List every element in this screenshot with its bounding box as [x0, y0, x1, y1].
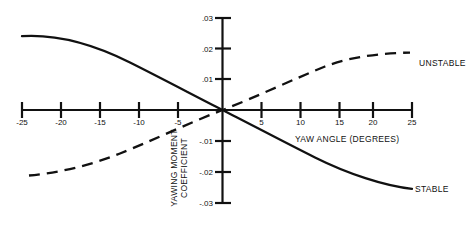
x-tick-label: 20	[369, 118, 378, 127]
y-axis-title-line-1: YAWING MOMENT	[169, 122, 179, 214]
series-label-stable: STABLE	[415, 184, 449, 194]
y-axis-title-line-2: COEFFICIENT	[179, 122, 189, 214]
x-tick-label: -15	[94, 118, 106, 127]
y-tick-label: .01	[196, 75, 213, 84]
chart-figure: -25 -20 -15 -10 -5 5 10 15 20 25 .03 .02…	[0, 0, 475, 229]
x-axis-title: YAW ANGLE (DEGREES)	[295, 134, 399, 144]
y-tick-label: .02	[196, 44, 213, 53]
x-tick-label: 15	[335, 118, 344, 127]
x-tick-label: -10	[133, 118, 145, 127]
y-axis-title: YAWING MOMENT COEFFICIENT	[152, 122, 242, 214]
x-tick-label: -20	[55, 118, 67, 127]
x-tick-label: 25	[408, 118, 417, 127]
x-tick-label: 5	[259, 118, 263, 127]
x-tick-label: -25	[16, 118, 28, 127]
y-tick-label: .03	[196, 14, 213, 23]
series-label-unstable: UNSTABLE	[419, 58, 466, 68]
x-tick-label: 10	[296, 118, 305, 127]
